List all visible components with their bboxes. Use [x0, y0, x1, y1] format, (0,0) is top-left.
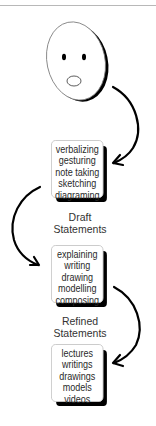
mouth-icon: [67, 76, 81, 86]
label-draft-statements: Draft Statements: [45, 211, 115, 235]
activity-box-refined: lectures writings drawings models videos: [51, 344, 103, 402]
left-eye-icon: [62, 54, 66, 60]
arrow-box1-to-box2: [12, 187, 40, 265]
box-item: models: [52, 382, 103, 393]
right-eye-icon: [82, 54, 86, 60]
label-line: Statements: [45, 327, 115, 339]
box-item: sketching: [52, 178, 103, 189]
box-item: modelling: [52, 283, 103, 294]
label-line: Draft: [45, 211, 115, 223]
label-line: Refined: [45, 315, 115, 327]
arrow-box2-to-box3: [113, 287, 140, 366]
activity-box-verbal: verbalizing gesturing note taking sketch…: [51, 140, 103, 198]
box-item: composing: [52, 295, 103, 306]
label-refined-statements: Refined Statements: [45, 315, 115, 339]
arrow-face-to-box1: [113, 87, 138, 165]
box-item: videos: [52, 394, 103, 405]
box-item: diagraming: [52, 190, 103, 201]
activity-box-draft: explaining writing drawing modelling com…: [51, 245, 103, 303]
surprised-face-icon: [39, 16, 115, 107]
label-line: Statements: [45, 223, 115, 235]
